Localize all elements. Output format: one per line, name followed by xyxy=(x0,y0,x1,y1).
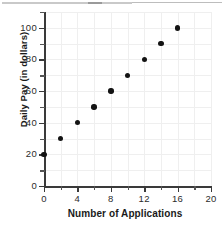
x-axis-minor-tick xyxy=(161,186,162,190)
x-axis-minor-tick xyxy=(94,186,95,190)
gridline-horizontal xyxy=(44,59,211,60)
gridline-vertical xyxy=(144,12,145,186)
scatter-plot-figure: Daily Pay (in dollars) Number of Applica… xyxy=(0,0,224,228)
y-tick-label: 60 xyxy=(7,85,37,96)
gridline-horizontal xyxy=(44,91,211,92)
y-axis-minor-tick xyxy=(40,75,45,76)
gridline-horizontal xyxy=(44,139,211,140)
data-point xyxy=(41,152,46,157)
gridline-horizontal xyxy=(44,44,211,45)
x-axis-minor-tick xyxy=(61,186,62,190)
y-tick-label-wrap: 0 xyxy=(0,180,37,192)
y-tick-label: 40 xyxy=(7,117,37,128)
x-axis-tick xyxy=(111,186,112,192)
y-axis-tick xyxy=(39,28,45,29)
y-tick-label-wrap: 20 xyxy=(0,148,37,160)
y-axis-minor-tick xyxy=(40,44,45,45)
gridline-horizontal xyxy=(44,28,211,29)
x-axis-tick xyxy=(144,186,145,192)
y-tick-label: 0 xyxy=(7,180,37,191)
gridline-vertical xyxy=(94,12,95,186)
y-axis-minor-tick xyxy=(40,12,45,13)
gridline-vertical xyxy=(77,12,78,186)
x-axis-tick xyxy=(44,186,45,192)
y-axis-minor-tick xyxy=(40,139,45,140)
x-tick-label: 8 xyxy=(99,193,123,204)
x-tick-label: 4 xyxy=(65,193,89,204)
gridline-vertical xyxy=(194,12,195,186)
y-axis-tick xyxy=(39,59,45,60)
y-tick-label-wrap: 80 xyxy=(0,53,37,65)
gridline-vertical xyxy=(128,12,129,186)
y-axis-minor-tick xyxy=(40,170,45,171)
gridline-horizontal xyxy=(44,170,211,171)
x-tick-label: 0 xyxy=(32,193,56,204)
y-tick-label: 100 xyxy=(7,22,37,33)
gridline-horizontal xyxy=(44,123,211,124)
data-point xyxy=(158,41,163,46)
y-axis-minor-tick xyxy=(40,107,45,108)
gridline-vertical xyxy=(178,12,179,186)
y-tick-label-wrap: 40 xyxy=(0,117,37,129)
x-tick-label: 12 xyxy=(132,193,156,204)
gridline-horizontal xyxy=(44,154,211,155)
gridline-horizontal xyxy=(44,12,211,13)
gridline-vertical xyxy=(161,12,162,186)
x-axis-tick xyxy=(77,186,78,192)
x-axis-minor-tick xyxy=(128,186,129,190)
plot-area xyxy=(44,12,211,186)
x-axis-tick xyxy=(178,186,179,192)
data-point xyxy=(142,57,147,62)
y-axis-tick xyxy=(39,123,45,124)
gridline-vertical xyxy=(111,12,112,186)
data-point xyxy=(175,25,180,30)
data-point xyxy=(91,104,96,109)
y-axis-line xyxy=(44,12,46,187)
y-tick-label-wrap: 60 xyxy=(0,85,37,97)
x-axis-minor-tick xyxy=(194,186,195,190)
x-axis-tick xyxy=(211,186,212,192)
gridline-vertical xyxy=(61,12,62,186)
gridline-horizontal xyxy=(44,107,211,108)
x-tick-label: 20 xyxy=(199,193,223,204)
y-tick-label-wrap: 100 xyxy=(0,22,37,34)
x-axis-title: Number of Applications xyxy=(30,208,220,219)
y-tick-label: 20 xyxy=(7,148,37,159)
x-tick-label: 16 xyxy=(166,193,190,204)
y-tick-label: 80 xyxy=(7,53,37,64)
y-axis-tick xyxy=(39,91,45,92)
gridline-vertical xyxy=(211,12,212,186)
data-point xyxy=(108,88,113,93)
